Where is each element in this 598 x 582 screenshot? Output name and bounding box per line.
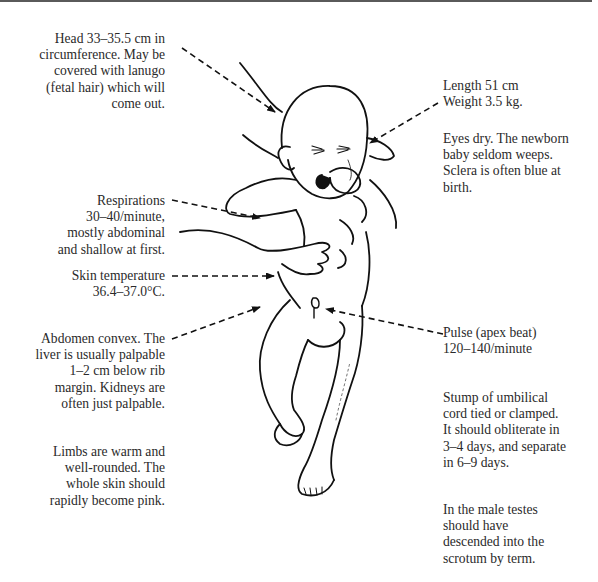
- annotation-skin-temperature: Skin temperature 36.4–37.0°C.: [10, 268, 165, 300]
- baby-arm-left: [226, 178, 296, 216]
- arrow-length-weight: [370, 103, 438, 143]
- annotation-head: Head 33–35.5 cm in circumference. May be…: [10, 31, 165, 112]
- annotation-testes: In the male testes should have descended…: [443, 502, 593, 567]
- baby-leg-right-inner: [298, 340, 340, 495]
- arrow-pulse: [326, 309, 443, 334]
- baby-eye-right: [337, 146, 350, 153]
- adult-hand-left: [180, 230, 329, 274]
- baby-hand-left: [296, 210, 305, 246]
- umbilical-stump: [312, 298, 319, 318]
- adult-fingers-right: [338, 196, 366, 268]
- baby-mouth: [316, 175, 330, 188]
- baby-torso-left: [278, 272, 300, 308]
- arrow-abdomen: [172, 307, 260, 339]
- annotation-respirations: Respirations 30–40/minute, mostly abdomi…: [10, 193, 165, 258]
- annotation-pulse: Pulse (apex beat) 120–140/minute: [443, 325, 593, 357]
- annotation-abdomen: Abdomen convex. The liver is usually pal…: [10, 331, 165, 412]
- pointer-arrows: [172, 48, 443, 339]
- arrow-head: [182, 48, 275, 112]
- annotation-eyes: Eyes dry. The newborn baby seldom weeps.…: [443, 131, 593, 196]
- adult-hand-right-edge: [370, 180, 396, 228]
- baby-torso-right: [362, 232, 369, 306]
- baby-drawing: [180, 63, 396, 495]
- annotation-limbs: Limbs are warm and well-rounded. The who…: [10, 444, 165, 509]
- adult-arm-line: [243, 135, 278, 158]
- baby-foot-left: [275, 424, 302, 445]
- baby-groin: [308, 322, 345, 347]
- arrow-respirations: [172, 200, 260, 218]
- annotation-length-weight: Length 51 cm Weight 3.5 kg.: [443, 78, 593, 110]
- baby-eye-left: [312, 146, 324, 154]
- annotation-umbilical-cord: Stump of umbilical cord tied or clamped.…: [443, 390, 593, 471]
- baby-leg-left: [260, 300, 308, 436]
- baby-ear-right: [367, 138, 394, 160]
- baby-leg-right-outer: [331, 306, 363, 480]
- baby-ear: [278, 146, 294, 169]
- adult-arm-line: [240, 63, 282, 112]
